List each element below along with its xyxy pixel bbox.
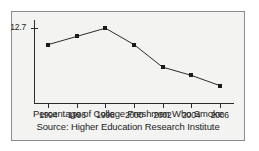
caption-block: Percentage of College Freshmen Who Smoke… [12, 107, 244, 133]
chart-figure: 12.7 1994199619982000200220042006 Percen… [11, 11, 245, 141]
chart-source: Source: Higher Education Research Instit… [12, 120, 244, 133]
series-line [34, 20, 234, 104]
data-point-marker [103, 26, 107, 30]
plot-area: 12.7 1994199619982000200220042006 [34, 20, 234, 104]
data-point-marker [75, 34, 79, 38]
data-point-marker [161, 65, 165, 69]
data-point-marker [189, 73, 193, 77]
data-point-marker [132, 43, 136, 47]
y-axis-tick-label: 12.7 [10, 22, 26, 32]
chart-title: Percentage of College Freshmen Who Smoke [12, 107, 244, 120]
data-point-marker [46, 43, 50, 47]
data-point-marker [218, 84, 222, 88]
